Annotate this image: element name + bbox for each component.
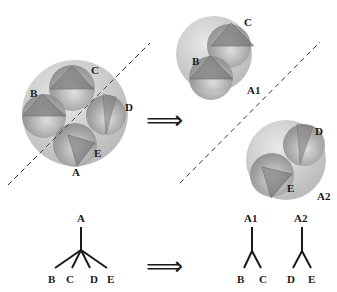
tree-before-root: A: [77, 212, 85, 224]
arrow-top: ⟹: [146, 105, 183, 135]
tree-after-A2-root: A2: [294, 212, 308, 224]
label-C: C: [91, 64, 99, 76]
tree-before-leaf-B: B: [48, 273, 56, 285]
tree-after-A1-leaf-B: B: [237, 273, 245, 285]
label-C-A1: C: [244, 16, 252, 28]
label-B-A1: B: [192, 55, 200, 67]
label-E: E: [94, 147, 101, 159]
cluster-A1: C B A1: [176, 16, 260, 100]
tree-before-leaf-C: C: [66, 273, 74, 285]
tree-after-A2-leaf-E: E: [308, 273, 315, 285]
tree-after-A2: [293, 227, 311, 268]
tree-after-A1: [244, 227, 261, 268]
tree-before-leaf-E: E: [107, 273, 114, 285]
tree-after-A1-root: A1: [244, 212, 257, 224]
tree-before-leaf-D: D: [90, 273, 98, 285]
cluster-A2: D E A2: [246, 120, 331, 202]
tree-before: [55, 227, 107, 268]
tree-after-A1-leaf-C: C: [259, 273, 267, 285]
label-D: D: [125, 101, 133, 113]
tree-after-A2-leaf-D: D: [287, 273, 295, 285]
label-B: B: [30, 87, 38, 99]
cluster-split-diagram: B C D E A ⟹ C B A1 D E A2 A B C: [0, 0, 337, 292]
label-D-A2: D: [315, 125, 323, 137]
arrow-bottom: ⟹: [146, 251, 183, 281]
left-cluster: B C D E A: [8, 43, 150, 185]
label-A1: A1: [247, 84, 260, 96]
label-A: A: [72, 166, 80, 178]
label-A2: A2: [317, 190, 331, 202]
label-E-A2: E: [287, 182, 294, 194]
